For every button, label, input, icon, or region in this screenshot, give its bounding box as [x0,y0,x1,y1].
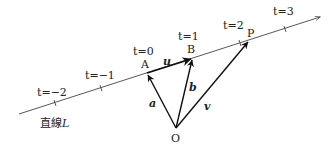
line-name-var: L [61,117,69,130]
tick-label-t-1: t=1 [178,30,199,43]
tick-label-t-0: t=0 [133,45,154,58]
line-name-label: 直線L [40,116,69,130]
point-label-B: B [187,43,195,56]
vector-label-a: a [149,97,156,110]
vector-label-v: v [204,100,211,113]
tick-label-t-3: t=3 [273,5,294,18]
tick-label-t-minus-1: t=−1 [85,69,115,82]
point-label-P: P [247,27,255,40]
tick-t-3 [284,26,286,32]
tick-label-t-2: t=2 [223,19,244,32]
point-label-A: A [140,58,150,71]
vector-label-u: u [163,55,171,68]
vector-label-b: b [189,81,197,94]
point-label-O: O [171,132,180,145]
line-name-kanji: 直線 [40,116,62,130]
vector-line-diagram: t=−2 t=−1 t=0 t=1 t=2 t=3 A B P O u a b … [0,0,336,154]
tick-label-t-minus-2: t=−2 [37,86,67,99]
